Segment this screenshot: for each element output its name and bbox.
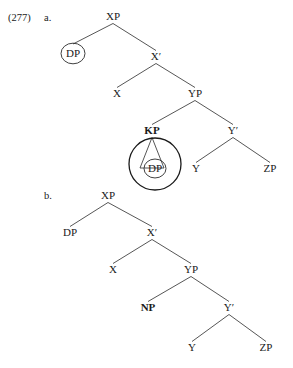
node-b-xp: XP (101, 189, 115, 201)
node-b-yp: YP (184, 263, 198, 275)
branch-a-xbar-to-a-yp (156, 64, 195, 88)
example-number: (277) (8, 12, 31, 24)
node-a-kp: KP (144, 124, 160, 136)
tree-b: b.XPDPX′XYPNPY′YZP (44, 189, 272, 353)
node-a-dp2: DP (148, 162, 162, 174)
branch-a-ybar-to-a-zp (233, 138, 270, 163)
node-b-dp: DP (63, 226, 77, 238)
node-a-xp: XP (106, 10, 120, 22)
node-b-x: X (109, 263, 117, 275)
branch-b-xbar-to-b-yp (152, 240, 191, 264)
node-a-xbar: X′ (151, 50, 161, 62)
branch-a-ybar-to-a-y (196, 138, 233, 163)
branch-b-xp-to-b-xbar (108, 203, 152, 227)
branch-a-xp-to-a-dp (73, 24, 113, 45)
node-a-yp: YP (188, 87, 202, 99)
tree-a: a.XPDPX′XYPKPY′DPYZP (44, 10, 276, 190)
node-a-y: Y (192, 162, 200, 174)
branch-a-xbar-to-a-x (117, 64, 156, 88)
branch-b-ybar-to-b-zp (229, 315, 266, 342)
branch-a-xp-to-a-xbar (113, 24, 156, 51)
tree-a-label: a. (44, 12, 51, 23)
branch-b-ybar-to-b-y (192, 315, 229, 342)
figure-canvas: (277)a.XPDPX′XYPKPY′DPYZPb.XPDPX′XYPNPY′… (0, 0, 293, 368)
branch-b-xbar-to-b-x (113, 240, 152, 264)
branch-b-xp-to-b-dp (70, 203, 108, 227)
branch-a-yp-to-a-kp (152, 101, 195, 125)
tree-b-label: b. (44, 190, 52, 201)
node-b-ybar: Y′ (224, 301, 234, 313)
node-a-ybar: Y′ (228, 124, 238, 136)
node-b-np: NP (141, 301, 156, 313)
branch-b-yp-to-b-ybar (191, 277, 229, 302)
node-a-x: X (113, 87, 121, 99)
node-b-zp: ZP (260, 341, 273, 353)
branch-a-yp-to-a-ybar (195, 101, 233, 125)
node-b-y: Y (188, 341, 196, 353)
branch-b-yp-to-b-np (148, 277, 191, 302)
node-a-dp: DP (66, 47, 80, 59)
node-a-zp: ZP (264, 162, 277, 174)
node-b-xbar: X′ (147, 226, 157, 238)
syntax-tree-figure: (277)a.XPDPX′XYPKPY′DPYZPb.XPDPX′XYPNPY′… (0, 0, 293, 368)
